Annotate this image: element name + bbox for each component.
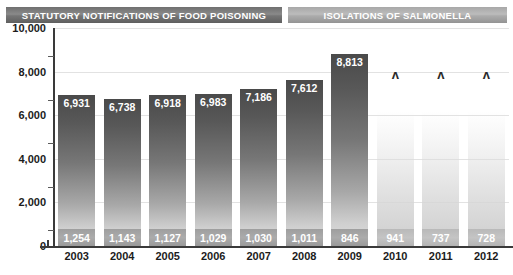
data-unavailable-marker: ʌ (468, 68, 505, 81)
data-unavailable-marker: ʌ (422, 68, 459, 81)
y-axis-tick-label: 6,000 (18, 109, 46, 121)
x-axis-tick-label: 2006 (191, 250, 237, 262)
bar-value-label-food-poisoning: 6,738 (105, 101, 140, 113)
bar-chart: 02,0004,0006,0008,00010,000 6,9311,2546,… (0, 28, 513, 275)
legend-banner-salmonella: ISOLATIONS OF SALMONELLA (288, 7, 507, 23)
bar-food-poisoning[interactable]: 7,1861,030 (240, 89, 277, 246)
bar-food-poisoning[interactable]: 6,9831,029 (195, 94, 232, 246)
bar-value-label-salmonella: 1,030 (246, 232, 272, 244)
x-axis: 2003200420052006200720082009201020112012 (54, 250, 509, 270)
bar-segment-salmonella[interactable]: 728 (468, 229, 505, 246)
bar-food-poisoning[interactable]: 7,6121,011 (286, 80, 323, 246)
bar-value-label-food-poisoning: 6,983 (196, 96, 231, 108)
bar-group[interactable]: 6,7381,143 (104, 28, 141, 246)
bar-segment-salmonella[interactable]: 1,143 (104, 229, 141, 246)
bar-series-container: 6,9311,2546,7381,1436,9181,1276,9831,029… (54, 28, 509, 246)
bar-unavailable[interactable]: 728 (468, 111, 505, 246)
y-axis-tick-label: 2,000 (18, 196, 46, 208)
bar-value-label-salmonella: 728 (477, 232, 495, 244)
bar-value-label-salmonella: 1,029 (200, 232, 226, 244)
bar-unavailable[interactable]: 737 (422, 111, 459, 246)
bar-value-label-food-poisoning: 7,612 (287, 82, 322, 94)
bar-group[interactable]: 941ʌ (377, 28, 414, 246)
bar-value-label-salmonella: 941 (386, 232, 404, 244)
bar-unavailable[interactable]: 941 (377, 111, 414, 246)
bar-segment-salmonella[interactable]: 941 (377, 229, 414, 246)
data-unavailable-marker: ʌ (377, 68, 414, 81)
top-bleed-strip (0, 0, 513, 6)
bar-segment-salmonella[interactable]: 737 (422, 229, 459, 246)
bar-group[interactable]: 737ʌ (422, 28, 459, 246)
bleed-text (8, 0, 11, 3)
bar-segment-salmonella[interactable]: 1,030 (240, 229, 277, 246)
y-axis-line (53, 28, 55, 247)
y-axis-tickmark (48, 230, 54, 231)
x-axis-tick-label: 2012 (464, 250, 510, 262)
bar-food-poisoning[interactable]: 6,9181,127 (149, 95, 186, 246)
x-axis-tick-label: 2007 (236, 250, 282, 262)
bar-value-label-food-poisoning: 6,931 (59, 97, 94, 109)
x-axis-tick-label: 2008 (282, 250, 328, 262)
y-axis-tick-label: 8,000 (18, 66, 46, 78)
bar-group[interactable]: 6,9831,029 (195, 28, 232, 246)
x-axis-tick-label: 2009 (327, 250, 373, 262)
plot-area: 6,9311,2546,7381,1436,9181,1276,9831,029… (54, 28, 509, 246)
bar-value-label-food-poisoning: 7,186 (241, 91, 276, 103)
x-axis-tick-label: 2010 (373, 250, 419, 262)
legend-banners: STATUTORY NOTIFICATIONS OF FOOD POISONIN… (0, 7, 513, 23)
x-axis-tick-label: 2005 (145, 250, 191, 262)
bar-value-label-salmonella: 737 (432, 232, 450, 244)
x-axis-tick-label: 2003 (54, 250, 100, 262)
bar-group[interactable]: 6,9311,254 (58, 28, 95, 246)
x-axis-line (40, 246, 513, 248)
y-axis-tickmark (48, 56, 54, 57)
bar-value-label-salmonella: 1,011 (291, 232, 317, 244)
bar-segment-salmonella[interactable]: 1,029 (195, 229, 232, 246)
y-axis-tick-label: 10,000 (12, 22, 46, 34)
bar-food-poisoning[interactable]: 6,7381,143 (104, 99, 141, 246)
bar-group[interactable]: 7,1861,030 (240, 28, 277, 246)
x-axis-origin-tick (47, 240, 49, 247)
bar-group[interactable]: 728ʌ (468, 28, 505, 246)
bar-value-label-salmonella: 1,127 (155, 232, 181, 244)
x-axis-tick-label: 2004 (100, 250, 146, 262)
bar-food-poisoning[interactable]: 8,813846 (331, 54, 368, 246)
y-axis-tickmark (48, 100, 54, 101)
y-axis-tickmark (48, 143, 54, 144)
bar-value-label-salmonella: 1,143 (109, 232, 135, 244)
bar-group[interactable]: 7,6121,011 (286, 28, 323, 246)
bar-segment-salmonella[interactable]: 1,127 (149, 229, 186, 246)
bar-segment-salmonella[interactable]: 846 (331, 229, 368, 246)
y-axis-tickmark (48, 187, 54, 188)
bar-segment-salmonella[interactable]: 1,011 (286, 229, 323, 246)
bar-food-poisoning[interactable]: 6,9311,254 (58, 95, 95, 246)
bar-value-label-food-poisoning: 6,918 (150, 97, 185, 109)
x-axis-tick-label: 2011 (418, 250, 464, 262)
bar-value-label-salmonella: 1,254 (64, 232, 90, 244)
bar-segment-salmonella[interactable]: 1,254 (58, 229, 95, 246)
y-axis-tick-label: 4,000 (18, 153, 46, 165)
bar-group[interactable]: 8,813846 (331, 28, 368, 246)
y-axis: 02,0004,0006,0008,00010,000 (0, 28, 52, 246)
bar-value-label-food-poisoning: 8,813 (332, 56, 367, 68)
legend-banner-food-poisoning: STATUTORY NOTIFICATIONS OF FOOD POISONIN… (6, 7, 282, 23)
bar-group[interactable]: 6,9181,127 (149, 28, 186, 246)
bar-value-label-salmonella: 846 (341, 232, 359, 244)
